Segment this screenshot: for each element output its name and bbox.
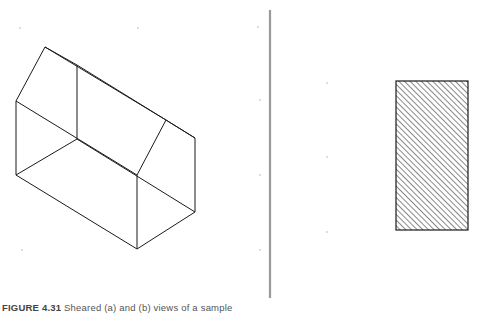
house-wireframe (16, 47, 195, 249)
grid-dot (259, 174, 261, 176)
grid-dot (326, 156, 328, 158)
grid-dot (19, 27, 21, 29)
figure-canvas (0, 0, 477, 313)
grid-dot (137, 27, 139, 29)
caption-text: Sheared (a) and (b) views of a sample (64, 302, 232, 313)
front-gable-edge (137, 120, 195, 175)
right-base (77, 139, 195, 212)
grid-dot (259, 249, 261, 251)
front-bottom (137, 212, 195, 249)
grid-dot (326, 231, 328, 233)
grid-dot (259, 99, 261, 101)
left-base (16, 175, 137, 249)
back-bottom-left (16, 139, 77, 175)
back-gable-edge (16, 47, 77, 101)
figure-caption: FIGURE 4.31 Sheared (a) and (b) views of… (2, 302, 233, 313)
caption-label: FIGURE 4.31 (2, 302, 61, 313)
grid-dot (257, 26, 259, 28)
grid-dot (326, 82, 328, 84)
grid-dot (21, 249, 23, 251)
hatch-fill (396, 81, 468, 230)
hatched-section (396, 81, 468, 230)
